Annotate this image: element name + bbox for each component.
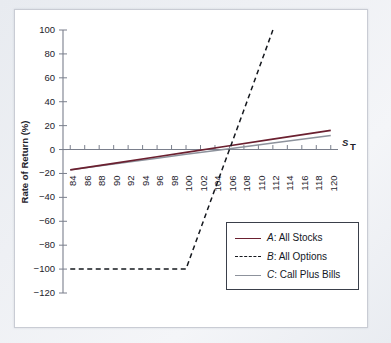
x-tick-label: 112 — [270, 176, 281, 191]
x-tick-label: 90 — [111, 176, 122, 187]
x-axis-title: S — [342, 137, 349, 148]
x-axis-title-subscript: T — [350, 141, 356, 152]
y-tick-label: −60 — [39, 215, 55, 226]
y-tick-label: −100 — [34, 263, 55, 274]
legend-text-a: : All Stocks — [274, 232, 323, 243]
legend-item-all-options: B: All Options — [235, 248, 351, 265]
legend-swatch-all-stocks — [235, 233, 261, 243]
y-tick-label: −20 — [39, 167, 55, 178]
legend-item-all-stocks: A: All Stocks — [235, 229, 351, 246]
y-axis-ticks: 100806040200−20−40−60−80−100−120 — [34, 24, 67, 298]
x-tick-label: 114 — [284, 176, 295, 191]
x-tick-label: 88 — [96, 176, 107, 187]
legend-label-call-plus-bills: C: Call Plus Bills — [267, 269, 340, 280]
x-tick-label: 102 — [198, 176, 209, 192]
legend-item-call-plus-bills: C: Call Plus Bills — [235, 266, 351, 283]
x-tick-label: 94 — [140, 176, 151, 187]
legend-key-b: B — [267, 251, 274, 262]
y-tick-label: 0 — [50, 144, 55, 155]
x-tick-label: 116 — [299, 176, 310, 191]
figure-root: 100806040200−20−40−60−80−100−120 8486889… — [0, 0, 391, 343]
x-tick-label: 118 — [313, 176, 324, 191]
y-axis-title: Rate of Return (%) — [19, 121, 30, 204]
legend-label-all-options: B: All Options — [267, 251, 327, 262]
legend-label-all-stocks: A: All Stocks — [267, 232, 323, 243]
x-tick-label: 86 — [82, 176, 93, 187]
y-tick-label: −80 — [39, 239, 55, 250]
legend-swatch-all-options — [235, 251, 261, 261]
x-tick-label: 92 — [125, 176, 136, 187]
x-tick-label: 106 — [227, 176, 238, 192]
y-tick-label: 100 — [39, 24, 55, 35]
y-axis-group: 100806040200−20−40−60−80−100−120 — [34, 24, 67, 298]
legend-text-b: : All Options — [274, 251, 327, 262]
x-tick-label: 120 — [328, 176, 339, 192]
legend-text-c: : Call Plus Bills — [274, 269, 340, 280]
y-tick-label: −120 — [34, 287, 55, 298]
y-tick-label: −40 — [39, 191, 55, 202]
legend-key-a: A — [267, 232, 274, 243]
y-tick-label: 60 — [44, 72, 55, 83]
chart-panel: 100806040200−20−40−60−80−100−120 8486889… — [14, 9, 368, 328]
y-tick-label: 20 — [44, 120, 55, 131]
y-tick-label: 40 — [44, 96, 55, 107]
chart-legend: A: All Stocks B: All Options C: Call Plu… — [226, 222, 359, 290]
y-tick-label: 80 — [44, 48, 55, 59]
x-tick-label: 98 — [169, 176, 180, 187]
x-tick-label: 108 — [241, 176, 252, 192]
x-tick-label: 96 — [154, 176, 165, 187]
x-tick-label: 110 — [256, 176, 267, 191]
series-line-all-stocks — [70, 130, 331, 169]
legend-swatch-call-plus-bills — [235, 270, 261, 280]
x-tick-label: 84 — [67, 176, 78, 187]
x-tick-label: 100 — [183, 176, 194, 192]
